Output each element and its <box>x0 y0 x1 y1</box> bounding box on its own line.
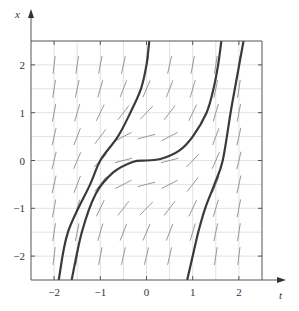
tick-labels: −2−1012−2−1012 <box>13 59 241 298</box>
y-tick-label: 1 <box>20 107 26 119</box>
x-tick-label: 2 <box>236 286 242 298</box>
direction-field-chart: −2−1012−2−1012 x t <box>0 0 299 311</box>
y-axis-label: x <box>14 8 20 20</box>
x-tick-label: 0 <box>144 286 150 298</box>
x-tick-label: 1 <box>190 286 196 298</box>
y-tick-label: −1 <box>13 202 25 214</box>
x-tick-label: −1 <box>94 286 106 298</box>
x-tick-label: −2 <box>48 286 60 298</box>
x-axis-arrow-icon <box>277 277 286 283</box>
y-tick-label: 2 <box>20 59 26 71</box>
x-axis-label: t <box>279 289 283 301</box>
y-axis-arrow-icon <box>28 9 34 18</box>
y-tick-label: −2 <box>13 250 25 262</box>
y-tick-label: 0 <box>20 155 26 167</box>
